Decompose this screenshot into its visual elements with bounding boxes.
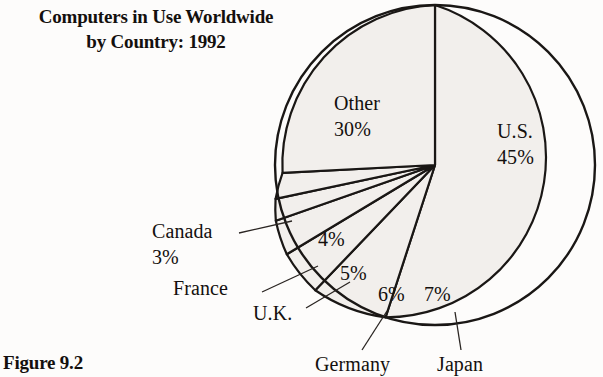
slice-label-other: Other 30% bbox=[334, 90, 380, 142]
slice-label-canada: Canada 3% bbox=[152, 218, 213, 270]
slice-label-germany: Germany bbox=[315, 352, 390, 376]
slice-value-germany: 6% bbox=[378, 283, 405, 306]
slice-label-canada-value: 3% bbox=[152, 244, 213, 270]
slice-label-france: France bbox=[173, 276, 228, 300]
leader-line-germany bbox=[362, 311, 387, 350]
slice-label-other-value: 30% bbox=[334, 116, 380, 142]
slice-label-japan: Japan bbox=[437, 352, 483, 376]
chart-title-line-1: Computers in Use Worldwide bbox=[6, 4, 306, 29]
chart-title: Computers in Use Worldwide by Country: 1… bbox=[6, 4, 306, 54]
figure-caption: Figure 9.2 bbox=[3, 352, 83, 374]
slice-label-uk: U.K. bbox=[253, 301, 292, 325]
slice-label-us-value: 45% bbox=[497, 144, 534, 170]
slice-value-uk: 5% bbox=[340, 262, 367, 285]
slice-value-france: 4% bbox=[318, 228, 345, 251]
pie-chart-graphic bbox=[0, 0, 603, 377]
slice-label-us: U.S. 45% bbox=[497, 118, 534, 170]
slice-label-canada-name: Canada bbox=[152, 218, 213, 244]
leader-line-japan bbox=[455, 312, 461, 350]
chart-title-line-2: by Country: 1992 bbox=[6, 29, 306, 54]
slice-label-us-name: U.S. bbox=[497, 118, 534, 144]
slice-value-japan: 7% bbox=[424, 283, 451, 306]
figure-page: Computers in Use Worldwide by Country: 1… bbox=[0, 0, 603, 377]
slice-label-other-name: Other bbox=[334, 90, 380, 116]
